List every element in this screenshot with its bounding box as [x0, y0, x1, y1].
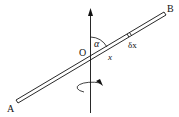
element-marker — [127, 34, 129, 37]
rotation-indicator — [77, 79, 103, 92]
rotating-rod-diagram: B A O α δx x — [0, 0, 179, 117]
label-alpha: α — [94, 38, 100, 49]
rod-ab — [16, 12, 166, 103]
label-o: O — [79, 47, 86, 58]
label-b: B — [167, 3, 174, 14]
label-a: A — [7, 103, 15, 114]
label-dx: δx — [128, 40, 137, 50]
label-x: x — [107, 52, 112, 62]
axis-arrow-icon — [88, 8, 93, 16]
